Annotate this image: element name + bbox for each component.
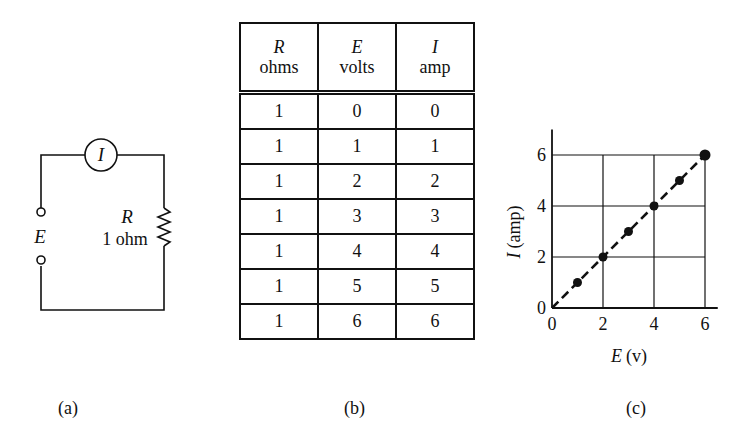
table-row: 144: [240, 234, 474, 269]
table-row: 100: [240, 93, 474, 130]
caption-b: (b): [344, 398, 365, 419]
cell: 3: [318, 199, 396, 234]
data-point: [700, 150, 711, 161]
cell: 1: [240, 164, 318, 199]
header-r: R ohms: [240, 23, 318, 93]
cell: 1: [318, 129, 396, 164]
x-tick: 4: [650, 314, 659, 334]
cell: 1: [240, 129, 318, 164]
cell: 5: [318, 269, 396, 304]
table-header-row: R ohms E volts I amp: [240, 23, 474, 93]
data-table: R ohms E volts I amp 100 111 122 133 144…: [239, 22, 475, 340]
terminal-bottom-icon: [37, 256, 45, 264]
wire-top-right: [117, 155, 164, 208]
cell: 2: [318, 164, 396, 199]
y-tick: 2: [537, 247, 546, 267]
x-tick: 0: [548, 314, 557, 334]
x-tick-labels: 0246: [548, 314, 710, 334]
data-point: [675, 176, 684, 185]
table-row: 122: [240, 164, 474, 199]
cell: 6: [318, 304, 396, 339]
table-row: 166: [240, 304, 474, 339]
resistor-symbol: R: [120, 206, 133, 227]
cell: 0: [396, 93, 474, 130]
iv-chart: 0246 0246 E(v) I(amp): [490, 100, 749, 390]
cell: 3: [396, 199, 474, 234]
table-row: 133: [240, 199, 474, 234]
chart-plot: 0246 0246 E(v) I(amp): [490, 100, 749, 390]
ammeter-label: I: [97, 144, 106, 165]
cell: 1: [240, 199, 318, 234]
header-e: E volts: [318, 23, 396, 93]
wire-top-left: [41, 155, 85, 208]
cell: 1: [240, 269, 318, 304]
cell: 4: [396, 234, 474, 269]
cell: 4: [318, 234, 396, 269]
wire-bottom: [41, 246, 164, 310]
cell: 0: [318, 93, 396, 130]
resistor-value: 1 ohm: [102, 229, 148, 249]
x-tick: 2: [599, 314, 608, 334]
table-row: 111: [240, 129, 474, 164]
resistor-icon: [158, 208, 170, 246]
y-tick: 0: [537, 298, 546, 318]
table-row: 155: [240, 269, 474, 304]
cell: 1: [240, 93, 318, 130]
terminal-top-icon: [37, 208, 45, 216]
circuit-diagram: I E R 1 ohm: [0, 0, 200, 444]
caption-c: (c): [626, 398, 646, 419]
x-axis-label: E(v): [610, 346, 647, 367]
header-i: I amp: [396, 23, 474, 93]
cell: 5: [396, 269, 474, 304]
data-point: [650, 202, 659, 211]
cell: 6: [396, 304, 474, 339]
y-axis-label: I(amp): [504, 206, 525, 260]
caption-a: (a): [58, 398, 78, 419]
data-point: [624, 227, 633, 236]
y-tick: 4: [537, 196, 546, 216]
y-tick: 6: [537, 145, 546, 165]
source-label: E: [33, 226, 46, 247]
data-point: [573, 278, 582, 287]
cell: 2: [396, 164, 474, 199]
cell: 1: [396, 129, 474, 164]
cell: 1: [240, 304, 318, 339]
cell: 1: [240, 234, 318, 269]
y-tick-labels: 0246: [537, 145, 546, 318]
circuit-schematic: I E R 1 ohm: [0, 0, 200, 444]
data-point: [599, 253, 608, 262]
x-tick: 6: [701, 314, 710, 334]
